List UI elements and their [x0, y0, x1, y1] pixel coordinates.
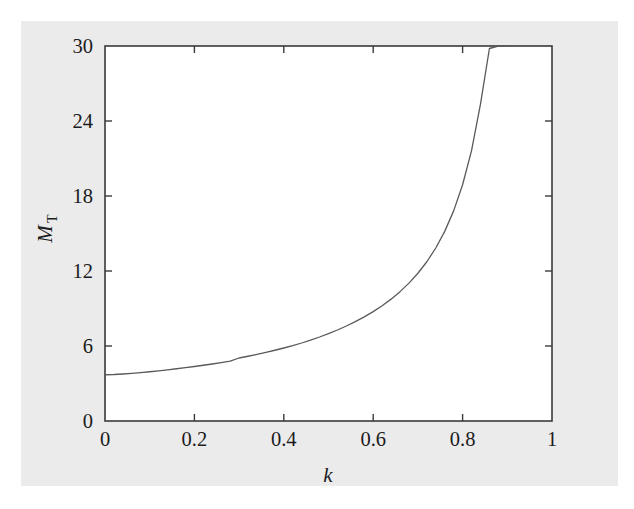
y-tick-label: 30	[73, 35, 94, 57]
y-axis-title-subscript: T	[45, 214, 60, 223]
plot-frame	[105, 46, 552, 421]
x-axis-title: k	[323, 463, 333, 487]
x-tick-label: 0.4	[271, 428, 297, 450]
figure-container: 00.20.40.60.81 0612182430 k M T	[0, 0, 634, 509]
x-axis-tick-labels: 00.20.40.60.81	[100, 428, 557, 450]
x-tick-label: 1	[547, 428, 557, 450]
y-tick-label: 0	[83, 410, 93, 432]
y-axis-title-group: M T	[33, 214, 60, 244]
chart-svg: 00.20.40.60.81 0612182430 k M T	[0, 0, 634, 509]
y-tick-label: 18	[73, 185, 94, 207]
y-tick-label: 12	[73, 260, 94, 282]
x-tick-label: 0	[100, 428, 110, 450]
y-tick-label: 24	[73, 110, 94, 132]
y-axis-tick-labels: 0612182430	[73, 35, 94, 432]
chart-plot-area: 00.20.40.60.81 0612182430 k M T	[0, 0, 634, 509]
x-tick-label: 0.8	[450, 428, 476, 450]
y-tick-label: 6	[83, 335, 93, 357]
y-axis-title-base: M	[33, 224, 57, 244]
x-tick-label: 0.6	[360, 428, 386, 450]
x-tick-label: 0.2	[182, 428, 208, 450]
